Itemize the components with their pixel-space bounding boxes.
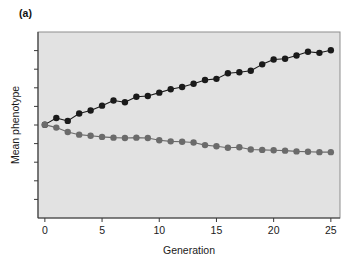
data-point-marker [168,138,174,144]
data-point-marker [133,94,139,100]
data-point-marker [122,135,128,141]
data-point-marker [213,76,219,82]
x-axis-tick-label: 10 [153,224,165,236]
data-point-marker [236,69,242,75]
data-point-marker [259,61,265,67]
data-point-marker [316,50,322,56]
data-point-marker [156,137,162,143]
data-point-marker [328,47,334,53]
data-point-marker [190,81,196,87]
data-point-marker [179,84,185,90]
figure-panel-a: (a) 0510152025 Generation Mean phenotype [0,0,358,263]
data-point-marker [87,133,93,139]
data-point-marker [305,149,311,155]
data-point-marker [328,149,334,155]
x-axis: 0510152025 [38,218,340,236]
data-point-marker [225,144,231,150]
data-point-marker [282,147,288,153]
data-point-marker [65,118,71,124]
data-point-marker [213,143,219,149]
data-point-marker [42,121,48,127]
data-point-marker [53,115,59,121]
data-point-marker [293,52,299,58]
data-point-marker [110,134,116,140]
x-axis-tick-label: 0 [42,224,48,236]
data-point-marker [133,134,139,140]
y-axis-ticks [34,51,38,200]
data-point-marker [236,144,242,150]
data-point-marker [99,134,105,140]
data-point-marker [53,124,59,130]
data-point-marker [248,67,254,73]
y-axis [34,32,38,218]
data-point-marker [99,102,105,108]
x-axis-tick-label: 5 [99,224,105,236]
plot-area-background [38,32,340,218]
line-chart: 0510152025 Generation Mean phenotype [0,0,358,263]
data-point-marker [145,135,151,141]
x-axis-tick-label: 25 [325,224,337,236]
data-point-marker [76,131,82,137]
data-point-marker [122,99,128,105]
data-point-marker [145,93,151,99]
data-point-marker [65,129,71,135]
data-point-marker [168,86,174,92]
x-axis-tick-labels: 0510152025 [42,224,337,236]
x-axis-ticks [45,218,331,222]
data-point-marker [76,110,82,116]
data-point-marker [270,147,276,153]
data-point-marker [293,148,299,154]
data-point-marker [190,139,196,145]
data-point-marker [110,97,116,103]
data-point-marker [179,139,185,145]
data-point-marker [270,56,276,62]
data-point-marker [248,146,254,152]
x-axis-tick-label: 20 [268,224,280,236]
data-point-marker [202,77,208,83]
data-point-marker [202,142,208,148]
x-axis-tick-label: 15 [211,224,223,236]
data-point-marker [259,147,265,153]
data-point-marker [282,56,288,62]
data-point-marker [305,49,311,55]
data-point-marker [156,89,162,95]
y-axis-title: Mean phenotype [9,86,21,164]
data-point-marker [225,70,231,76]
data-point-marker [87,107,93,113]
x-axis-title: Generation [163,244,215,256]
data-point-marker [316,149,322,155]
